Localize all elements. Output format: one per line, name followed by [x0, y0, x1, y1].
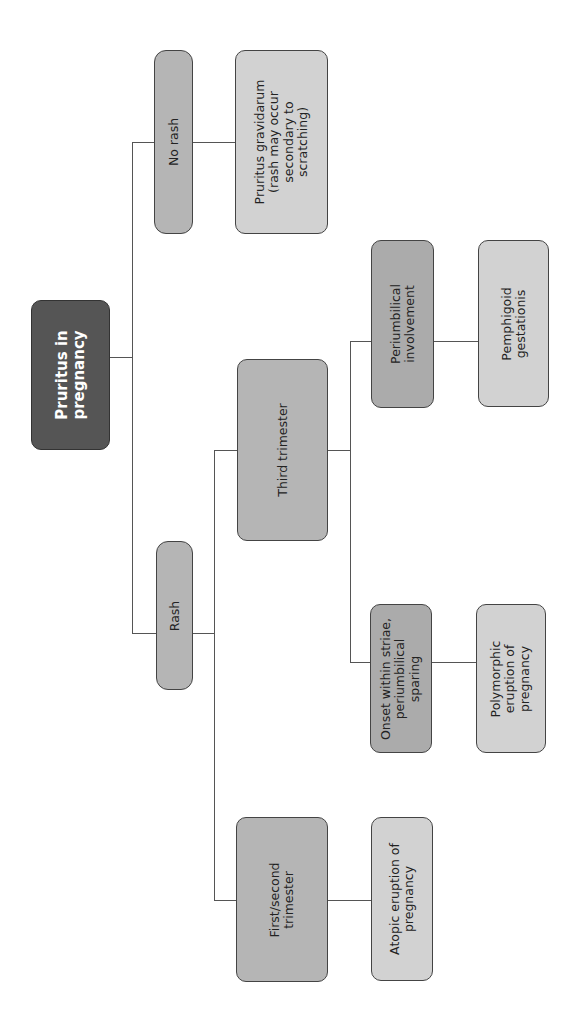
connector-root-spine [132, 142, 133, 633]
node-onset-within-striae: Onset within striae, periumbilical spari… [370, 604, 432, 753]
connector-to-no-rash [132, 142, 154, 143]
connector-third-spine [350, 341, 351, 663]
node-first-second-trimester: First/second trimester [236, 817, 328, 982]
node-pemphigoid-gestationis: Pemphigoid gestationis [478, 240, 549, 407]
connector-first-second-to-atopic [328, 900, 371, 901]
connector-to-rash [132, 633, 156, 634]
connector-no-rash-to-gravidarum [193, 142, 235, 143]
connector-to-onset-striae [350, 662, 370, 663]
node-pruritus-gravidarum: Pruritus gravidarum (rash may occur seco… [235, 50, 328, 234]
node-rash: Rash [156, 541, 193, 690]
connector-to-first-second [214, 900, 236, 901]
node-root-label: Pruritus in pregnancy [53, 330, 88, 419]
connector-rash-spine [214, 450, 215, 901]
node-third-trimester: Third trimester [237, 359, 328, 541]
connector-to-third-trimester [214, 450, 237, 451]
connector-periumbilical-to-pemphigoid [434, 341, 478, 342]
flowchart-pruritus-in-pregnancy: Pruritus in pregnancy No rash Pruritus g… [0, 0, 575, 1014]
node-periumbilical-involvement: Periumbilical involvement [371, 240, 434, 408]
node-atopic-eruption: Atopic eruption of pregnancy [371, 817, 433, 981]
node-root: Pruritus in pregnancy [31, 300, 110, 450]
node-no-rash: No rash [154, 50, 193, 234]
connector-root-stem [110, 357, 132, 358]
connector-onset-to-polymorphic [432, 662, 476, 663]
node-polymorphic-eruption: Polymorphic eruption of pregnancy [476, 604, 546, 753]
connector-rash-stem [193, 633, 215, 634]
connector-third-stem [328, 450, 350, 451]
connector-to-periumbilical [350, 341, 371, 342]
